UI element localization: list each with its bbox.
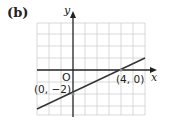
point-marker: [72, 93, 75, 96]
y-axis: [70, 11, 76, 117]
point-label-x-intercept: (4, 0): [116, 73, 144, 85]
point-label-y-intercept: (0, −2): [34, 83, 71, 95]
y-axis-label: y: [64, 4, 70, 17]
x-axis-label: x: [151, 71, 157, 84]
part-label: (b): [7, 5, 28, 20]
y-axis-arrow-icon: [70, 11, 76, 18]
point-marker: [120, 69, 123, 72]
